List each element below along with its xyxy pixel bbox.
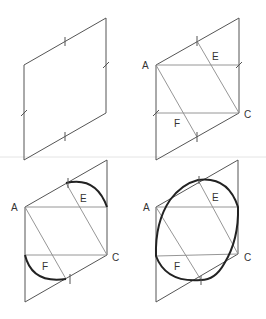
label-c: C bbox=[244, 252, 251, 263]
label-f: F bbox=[174, 261, 180, 272]
ellipse-construction-diagram: A C E F A C E F A C E F bbox=[0, 0, 266, 319]
panel-step-3: A C E F bbox=[11, 160, 119, 302]
label-a: A bbox=[11, 202, 18, 213]
label-a: A bbox=[143, 202, 150, 213]
label-f: F bbox=[42, 261, 48, 272]
inscribed-ellipse bbox=[156, 180, 238, 281]
label-f: F bbox=[174, 118, 180, 129]
panel-step-2: A C E F bbox=[142, 18, 251, 160]
panel-step-4: A C E F bbox=[143, 160, 251, 302]
construction-line-left-c bbox=[156, 254, 238, 256]
label-e: E bbox=[212, 192, 219, 203]
label-e: E bbox=[80, 193, 87, 204]
label-c: C bbox=[244, 109, 251, 120]
panel-step-1 bbox=[21, 18, 109, 160]
label-a: A bbox=[142, 60, 149, 71]
rhombus bbox=[25, 160, 107, 302]
label-e: E bbox=[212, 51, 219, 62]
label-c: C bbox=[112, 252, 119, 263]
